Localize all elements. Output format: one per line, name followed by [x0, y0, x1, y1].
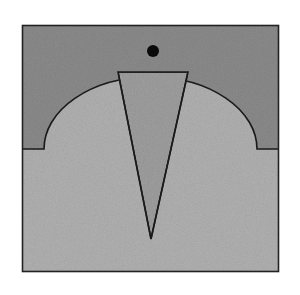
black-dot — [147, 45, 159, 57]
diagram-canvas — [0, 0, 300, 295]
diagram-svg — [0, 0, 300, 295]
